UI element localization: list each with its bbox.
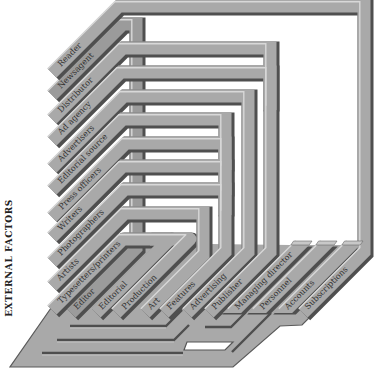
base-slab-opening [184, 342, 233, 350]
cap-managing-director [291, 241, 312, 245]
external-factors-heading: EXTERNAL FACTORS [4, 199, 14, 317]
publishing-structure-diagram: Reader Newsagent Distributor Ad agency A… [0, 0, 380, 374]
cap-accounts [342, 241, 363, 245]
cap-personnel [316, 241, 337, 245]
strip-caps [291, 241, 363, 245]
